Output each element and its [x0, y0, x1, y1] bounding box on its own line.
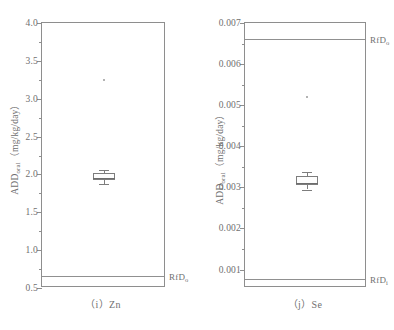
y-tick-label: 3.5 — [26, 56, 38, 66]
boxplot-median — [93, 178, 115, 179]
boxplot-cap-lower — [99, 184, 109, 185]
y-tick-label: 0.006 — [219, 59, 241, 69]
reference-line-label: RfDi — [370, 275, 388, 285]
y-axis-title-units: （mg/kg/day） — [10, 99, 20, 162]
panel-zn: ADDoral（mg/kg/day） 4.0 3.5 3.0 2.5 — [0, 0, 197, 330]
y-tick-label: 3.0 — [26, 94, 38, 104]
panel-caption-zn: （i）Zn — [41, 296, 165, 311]
y-tick-label: 0.5 — [26, 283, 38, 293]
plot-area-se: 0.007 0.006 0.005 0.004 0.003 0.002 — [244, 22, 366, 287]
y-tick-label: 2.5 — [26, 132, 38, 142]
reference-line-rfd-i-se: RfDi — [245, 279, 365, 280]
boxplot-cap-upper — [99, 170, 109, 171]
panel-caption-se: （j）Se — [244, 296, 366, 311]
y-tick-label: 0.002 — [219, 223, 241, 233]
y-axis-title-zn: ADDoral（mg/kg/day） — [7, 77, 21, 217]
boxplot-cap-upper — [302, 172, 312, 173]
boxplot-median — [296, 183, 318, 184]
y-tick-label: 1.5 — [26, 207, 38, 217]
plot-area-zn: 4.0 3.5 3.0 2.5 2.0 1.5 — [41, 22, 165, 287]
y-tick-label: 1.0 — [26, 245, 38, 255]
y-axis-title-subscript: oral — [14, 162, 21, 173]
reference-line-label: RfDo — [169, 272, 189, 282]
y-tick-label: 0.007 — [219, 18, 241, 28]
boxplot-box — [296, 176, 318, 185]
figure-boxplots: ADDoral（mg/kg/day） 4.0 3.5 3.0 2.5 — [0, 0, 394, 330]
boxplot-box — [93, 173, 115, 180]
panel-se: ADDoral（mg/kg/day） 0.007 0.006 0.005 0.0… — [197, 0, 394, 330]
reference-line-rfd-o-se: RfDo — [245, 39, 365, 40]
boxplot-cap-lower — [302, 190, 312, 191]
reference-line-label: RfDo — [370, 35, 390, 45]
y-tick-label: 0.004 — [219, 141, 241, 151]
y-tick-label: 4.0 — [26, 18, 38, 28]
boxplot-outlier — [103, 79, 105, 81]
y-tick-label: 0.003 — [219, 182, 241, 192]
boxplot-outlier — [306, 96, 308, 98]
y-tick-label: 0.005 — [219, 100, 241, 110]
y-tick-label: 0.001 — [219, 265, 241, 275]
reference-line-rfd-o-zn: RfDo — [42, 276, 164, 277]
y-tick-label: 2.0 — [26, 169, 38, 179]
y-axis-title-main: ADD — [10, 174, 20, 195]
